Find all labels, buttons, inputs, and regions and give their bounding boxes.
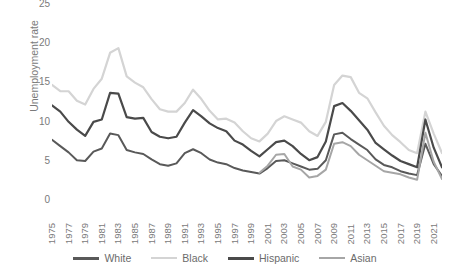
- x-axis-tick-2015: 2015: [379, 223, 389, 244]
- y-axis-tick-25: 25: [20, 0, 50, 9]
- x-axis-tick-2011: 2011: [346, 224, 356, 244]
- y-axis-tick-0: 0: [20, 195, 50, 205]
- plot-area: [52, 5, 442, 201]
- y-axis: Unemployment rate 2520151050: [8, 0, 50, 210]
- series-line-black: [52, 48, 442, 153]
- x-axis-tick-2021: 2021: [429, 223, 439, 244]
- x-axis-tick-1997: 1997: [230, 223, 240, 244]
- legend-swatch-asian-icon: [319, 257, 345, 259]
- x-axis-tick-2007: 2007: [313, 223, 323, 244]
- y-axis-tick-15: 15: [20, 77, 50, 87]
- y-axis-tick-20: 20: [20, 38, 50, 48]
- legend-swatch-hispanic-icon: [228, 257, 254, 260]
- series-line-white: [52, 133, 442, 176]
- x-axis-tick-1993: 1993: [196, 223, 206, 244]
- x-axis-tick-2003: 2003: [279, 223, 289, 244]
- legend-item-black[interactable]: Black: [151, 253, 208, 264]
- x-axis-tick-1989: 1989: [163, 223, 173, 244]
- x-axis-tick-2009: 2009: [329, 223, 339, 244]
- x-axis-tick-1983: 1983: [113, 223, 123, 244]
- x-axis-tick-2017: 2017: [396, 223, 406, 244]
- x-axis-tick-1987: 1987: [147, 223, 157, 244]
- x-axis-tick-1977: 1977: [64, 223, 74, 244]
- legend-label-black: Black: [182, 253, 208, 264]
- x-axis-tick-1981: 1981: [97, 223, 107, 244]
- x-axis-tick-1991: 1991: [180, 223, 190, 244]
- legend-item-asian[interactable]: Asian: [319, 253, 376, 264]
- x-axis: 1975197719791981198319851987198919911993…: [52, 200, 442, 244]
- legend-item-white[interactable]: White: [73, 253, 131, 264]
- x-axis-tick-1995: 1995: [213, 223, 223, 244]
- x-axis-tick-2005: 2005: [296, 223, 306, 244]
- x-axis-tick-2019: 2019: [412, 223, 422, 244]
- x-axis-tick-2013: 2013: [362, 223, 372, 244]
- x-axis-tick-1975: 1975: [47, 223, 57, 244]
- legend-swatch-white-icon: [73, 257, 99, 260]
- x-axis-tick-1979: 1979: [80, 223, 90, 244]
- x-axis-tick-1985: 1985: [130, 223, 140, 244]
- legend-swatch-black-icon: [151, 257, 177, 259]
- legend-label-white: White: [104, 253, 131, 264]
- chart-legend: WhiteBlackHispanicAsian: [0, 248, 450, 268]
- x-axis-tick-1999: 1999: [246, 223, 256, 244]
- unemployment-rate-line-chart: Unemployment rate 2520151050 19751977197…: [0, 0, 450, 274]
- x-axis-tick-2001: 2001: [263, 223, 273, 244]
- legend-label-hispanic: Hispanic: [259, 253, 299, 264]
- legend-label-asian: Asian: [350, 253, 376, 264]
- legend-item-hispanic[interactable]: Hispanic: [228, 253, 299, 264]
- y-axis-tick-10: 10: [20, 117, 50, 127]
- y-axis-tick-5: 5: [20, 156, 50, 166]
- series-lines: [52, 5, 442, 201]
- series-line-hispanic: [52, 93, 442, 167]
